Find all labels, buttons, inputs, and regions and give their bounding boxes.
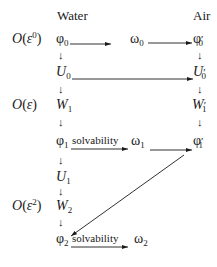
diagram-arrows bbox=[0, 0, 217, 267]
arrow-phi1prime-phi2 bbox=[71, 155, 184, 236]
